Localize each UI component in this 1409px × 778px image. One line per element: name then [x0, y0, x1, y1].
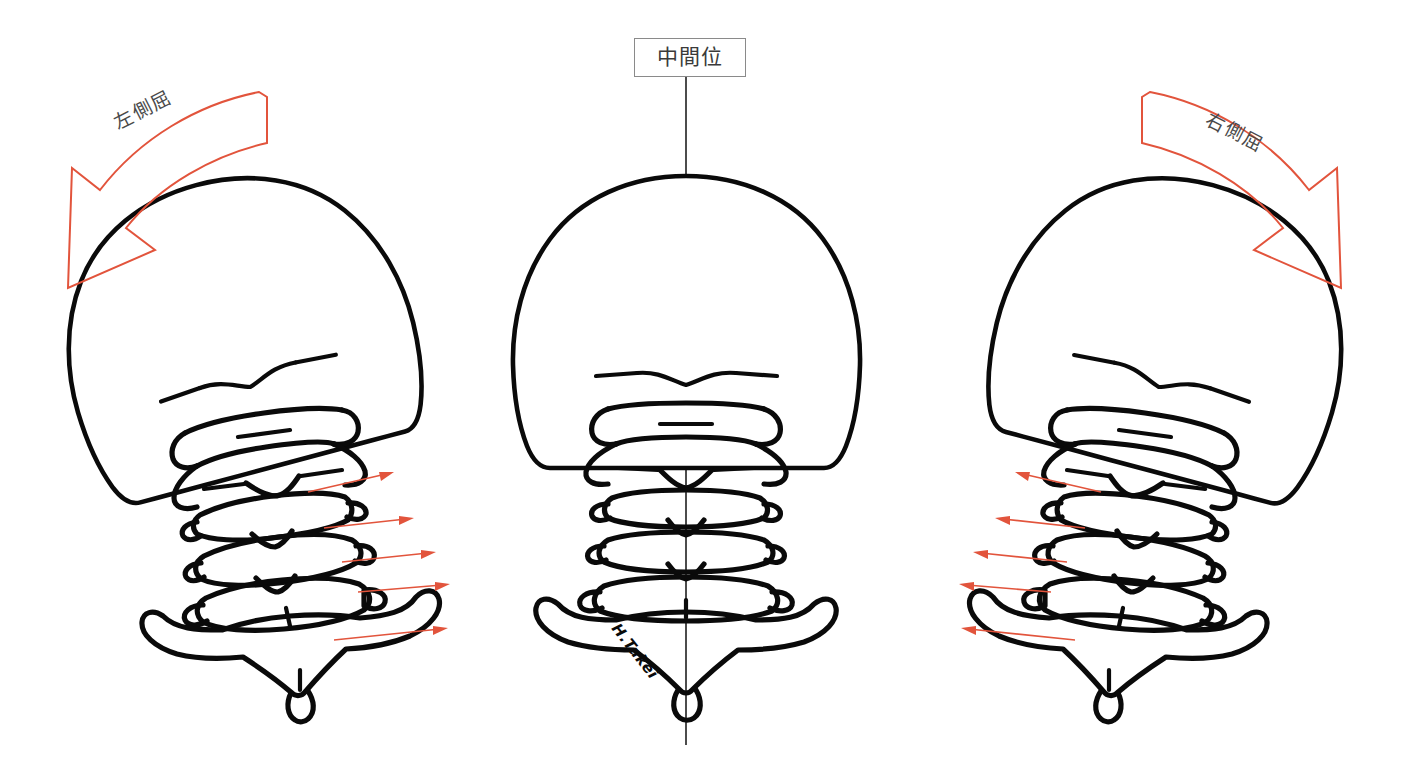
vertebra-c7-t1-right [970, 591, 1268, 696]
neutral-position-label: 中間位 [634, 38, 746, 77]
right-skull-group [970, 140, 1381, 512]
skull-outline-right [970, 140, 1381, 512]
vertebra-c2-lamina-left-r [1067, 470, 1108, 476]
pointer-arrow-2-right [995, 516, 1085, 528]
vertebra-c3-tp-right-r [1208, 522, 1227, 540]
pointer-arrow-3-right [973, 550, 1067, 562]
right-panel-lateral-flexion [0, 0, 1409, 778]
figure-canvas: 中間位 左側屈 右側屈 H.Takei [0, 0, 1409, 778]
pointer-arrow-5-right [961, 626, 1075, 640]
